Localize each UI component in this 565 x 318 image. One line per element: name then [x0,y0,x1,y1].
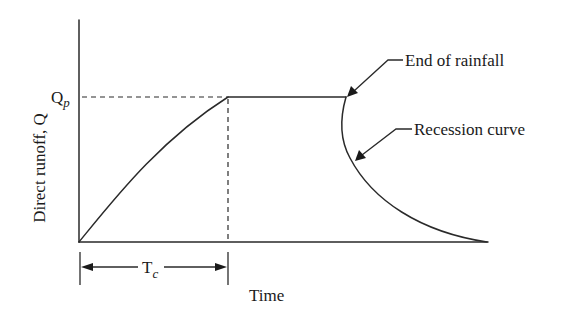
y-axis-label: Direct runoff, Q [30,113,49,223]
end-of-rainfall-leader [354,60,403,91]
tc-right-arrowhead-icon [215,263,227,271]
hydrograph-diagram: Tc Qp Direct runoff, Q Time End of rainf… [0,0,565,318]
end-of-rainfall-label: End of rainfall [405,51,504,70]
tc-label: Tc [142,258,158,281]
recession-curve-leader [362,129,412,155]
recession-curve-arrowhead-icon [355,150,366,161]
tc-left-arrowhead-icon [81,263,93,271]
rising-limb-curve [79,97,228,242]
recession-curve-label: Recession curve [414,120,525,139]
recession-curve [342,97,487,242]
end-of-rainfall-arrowhead-icon [347,86,358,97]
x-axis-label: Time [249,286,284,305]
peak-discharge-label: Qp [51,88,70,110]
